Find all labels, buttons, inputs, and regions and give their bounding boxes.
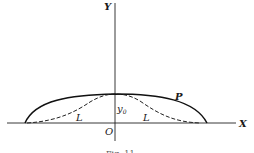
y-axis-label: Y (104, 1, 112, 12)
curve-p-label: P (174, 91, 183, 102)
origin-label: O (105, 126, 113, 137)
curve-l-label-left: L (75, 112, 83, 123)
peak-label: y0 (116, 103, 127, 115)
curve-l-label-right: L (142, 112, 150, 123)
x-axis-label: X (238, 118, 248, 129)
diagram: Y X O P L L y0 Fig. 11 (0, 0, 254, 153)
figure-caption: Fig. 11 (106, 149, 135, 153)
